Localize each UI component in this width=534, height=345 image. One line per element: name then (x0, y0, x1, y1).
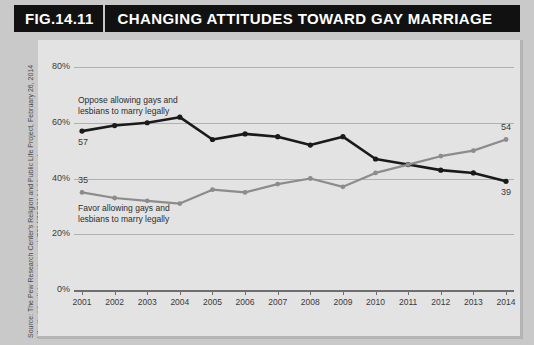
series-label-favor: Favor allowing gays and lesbians to marr… (78, 203, 170, 225)
figure-number: FIG.14.11 (14, 10, 103, 27)
data-point (210, 137, 215, 142)
data-point (438, 154, 443, 159)
source-line-1: Source: The Pew Research Center's Religi… (26, 38, 35, 338)
data-point (80, 190, 85, 195)
data-point (210, 187, 215, 192)
data-point (340, 134, 345, 139)
chart-panel: 0%20%40%60%80% 2001200220032004200520062… (38, 40, 523, 339)
data-point (471, 148, 476, 153)
oppose-label-line-1: Oppose allowing gays and (78, 95, 178, 106)
source-credit: Source: The Pew Research Center's Religi… (4, 38, 32, 338)
figure-header-bar: FIG.14.11 CHANGING ATTITUDES TOWARD GAY … (14, 5, 520, 32)
data-point (275, 182, 280, 187)
data-point (145, 120, 150, 125)
data-point (406, 162, 411, 167)
data-point (471, 170, 476, 175)
data-point (504, 137, 509, 142)
plot-area: 0%20%40%60%80% 2001200220032004200520062… (38, 40, 520, 336)
data-point (275, 134, 280, 139)
oppose-label-line-2: lesbians to marry legally (78, 106, 178, 117)
data-point (373, 156, 378, 161)
data-point (503, 179, 508, 184)
data-point (79, 129, 84, 134)
data-point (308, 142, 313, 147)
data-point (373, 171, 378, 176)
data-point (243, 190, 248, 195)
figure-container: FIG.14.11 CHANGING ATTITUDES TOWARD GAY … (0, 0, 534, 345)
data-point (438, 168, 443, 173)
data-point (308, 176, 313, 181)
data-point (177, 201, 182, 206)
page-title: CHANGING ATTITUDES TOWARD GAY MARRIAGE (105, 10, 493, 27)
data-label-oppose-start: 57 (78, 137, 88, 147)
data-label-favor-start: 35 (78, 175, 88, 185)
data-point (177, 115, 182, 120)
favor-label-line-1: Favor allowing gays and (78, 203, 170, 214)
series-layer (38, 40, 520, 336)
data-label-oppose-end: 39 (501, 187, 511, 197)
data-point (112, 196, 117, 201)
data-label-favor-end: 54 (501, 122, 511, 132)
data-point (341, 184, 346, 189)
series-label-oppose: Oppose allowing gays and lesbians to mar… (78, 95, 178, 117)
data-point (112, 123, 117, 128)
data-point (242, 131, 247, 136)
favor-label-line-2: lesbians to marry legally (78, 214, 170, 225)
